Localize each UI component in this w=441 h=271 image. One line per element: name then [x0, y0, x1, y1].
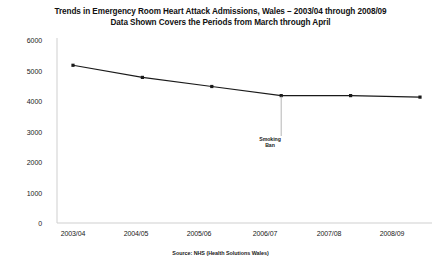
x-tick-label-2007-08: 2007/08 [297, 230, 361, 238]
smoking-ban-annotation: Smoking Ban [247, 136, 293, 148]
y-tick-label-4000: 4000 [8, 98, 42, 106]
y-tick-label-0: 0 [8, 220, 42, 228]
x-tick-label-2005-06: 2005/06 [167, 230, 231, 238]
y-tick-label-1000: 1000 [8, 190, 42, 198]
y-tick-label-2000: 2000 [8, 159, 42, 167]
x-tick-label-2008-09: 2008/09 [360, 230, 424, 238]
x-tick-label-2003-04: 2003/04 [41, 230, 105, 238]
chart-figure: Trends in Emergency Room Heart Attack Ad… [0, 0, 441, 271]
y-tick-label-3000: 3000 [8, 129, 42, 137]
data-point-2008-09 [418, 96, 421, 99]
data-markers [71, 64, 421, 99]
smoking-ban-annotation-line2: Ban [247, 142, 293, 148]
source-note: Source: NHS (Health Solutions Wales) [0, 250, 441, 256]
data-point-2007-08 [349, 94, 352, 97]
data-point-2004-05 [141, 76, 144, 79]
data-point-2003-04 [71, 64, 74, 67]
y-tick-label-6000: 6000 [8, 37, 42, 45]
x-tick-label-2006-07: 2006/07 [233, 230, 297, 238]
y-tick-label-5000: 5000 [8, 68, 42, 76]
x-tick-label-2004-05: 2004/05 [104, 230, 168, 238]
data-point-2005-06 [210, 85, 213, 88]
data-line [73, 65, 420, 97]
